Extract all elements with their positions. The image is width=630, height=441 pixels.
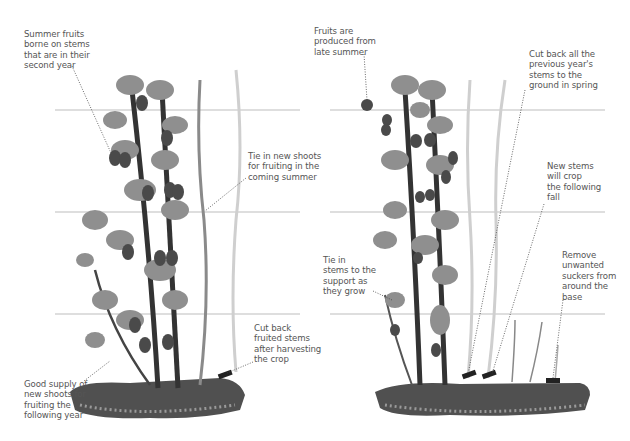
annotation-remove-suckers: Remove unwanted suckers from around the …: [562, 250, 616, 302]
annotation-tie-in-stems: Tie in stems to the support as they grow: [323, 255, 376, 297]
soil-mound-right: [375, 383, 590, 416]
annotation-cut-back-all-stems: Cut back all the previous year's stems t…: [529, 49, 598, 91]
annotation-fruits-late-summer: Fruits are produced from late summer: [314, 26, 376, 57]
annotation-cut-back-fruited-stems: Cut back fruited stems after harvesting …: [254, 323, 321, 365]
annotation-summer-fruits: Summer fruits borne on stems that are in…: [24, 29, 90, 71]
annotation-tie-in-new-shoots: Tie in new shoots for fruiting in the co…: [248, 151, 321, 182]
annotation-new-stems-crop: New stems will crop the following fall: [547, 161, 601, 203]
left-panel-plant: [70, 70, 245, 418]
right-panel-plant: [361, 75, 590, 416]
annotation-good-supply-of-shoots: Good supply of new shoots for fruiting t…: [24, 379, 87, 421]
